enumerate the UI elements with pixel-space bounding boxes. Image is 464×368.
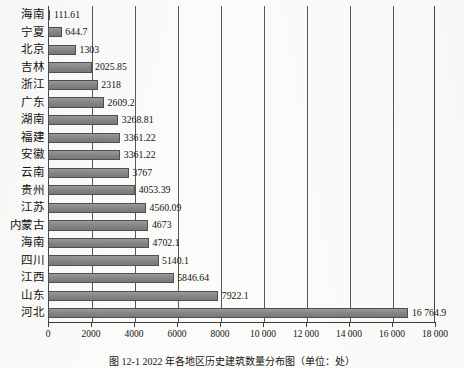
x-tick-label: 18 000 [422,329,448,340]
bar-row: 江苏4560.09 [0,199,464,217]
x-tick-label: 2000 [82,329,101,340]
category-label: 浙江 [21,76,44,94]
category-label: 海南 [21,6,44,24]
category-label: 福建 [21,129,44,147]
bar-row: 内蒙古4673 [0,217,464,235]
value-label: 3361.22 [124,131,156,145]
bar-row: 北京1303 [0,41,464,59]
x-tick-8000 [220,322,221,327]
category-label: 内蒙古 [10,217,44,235]
bar [48,133,120,143]
bar-row: 四川5140.1 [0,252,464,270]
bar [48,80,98,90]
category-label: 广东 [21,94,44,112]
x-tick-label: 14 000 [336,329,362,340]
value-label: 1303 [80,43,100,57]
value-label: 2318 [101,78,121,92]
bar-row: 湖南3268.81 [0,111,464,129]
x-tick-label: 12 000 [293,329,319,340]
x-tick-label: 6000 [168,329,187,340]
value-label: 4702.1 [153,236,180,250]
bar [48,185,135,195]
x-tick-6000 [177,322,178,327]
value-label: 4053.39 [139,183,171,197]
bar [48,97,104,107]
bar-row: 宁夏644.7 [0,24,464,42]
x-tick-label: 8000 [211,329,230,340]
chart-figure: 海南111.61宁夏644.7北京1303吉林2025.85浙江2318广东26… [0,0,464,368]
bar-row: 广东2609.2 [0,94,464,112]
bar [48,238,149,248]
value-label: 5140.1 [162,254,189,268]
category-label: 北京 [21,41,44,59]
bar-row: 福建3361.22 [0,129,464,147]
bar-row: 浙江2318 [0,76,464,94]
value-label: 3268.81 [122,113,154,127]
bar-row: 贵州4053.39 [0,182,464,200]
category-label: 湖南 [21,111,44,129]
category-label: 江西 [21,269,44,287]
x-tick-2000 [91,322,92,327]
bar-row: 海南111.61 [0,6,464,24]
bar [48,203,146,213]
value-label: 4673 [152,218,172,232]
category-label: 河北 [21,304,44,322]
category-label: 云南 [21,164,44,182]
bar [48,27,62,37]
value-label: 2025.85 [95,60,127,74]
x-tick-label: 10 000 [250,329,276,340]
category-label: 山东 [21,287,44,305]
x-tick-16000 [392,322,393,327]
x-tick-label: 16 000 [379,329,405,340]
bar-row: 山东7922.1 [0,287,464,305]
x-tick-14000 [349,322,350,327]
value-label: 3361.22 [124,148,156,162]
x-tick-18000 [435,322,436,327]
bar [48,168,129,178]
category-label: 宁夏 [21,24,44,42]
x-tick-label: 4000 [125,329,144,340]
x-axis-line [48,322,435,323]
bar [48,220,148,230]
bar [48,291,218,301]
category-label: 安徽 [21,146,44,164]
x-tick-12000 [306,322,307,327]
bar [48,308,408,318]
x-tick-4000 [134,322,135,327]
category-label: 江苏 [21,199,44,217]
bar [48,255,159,265]
value-label: 5846.64 [177,271,209,285]
category-label: 海南 [21,234,44,252]
value-label: 2609.2 [108,96,135,110]
category-label: 四川 [21,252,44,270]
bar-row: 河北16 764.9 [0,304,464,322]
bar [48,62,92,72]
bar [48,115,118,125]
bar [48,150,120,160]
bar-row: 安徽3361.22 [0,146,464,164]
value-label: 644.7 [65,25,87,39]
x-tick-label: 0 [46,329,51,340]
bar-row: 海南4702.1 [0,234,464,252]
bar [48,10,50,20]
value-label: 3767 [132,166,152,180]
figure-caption: 图 12-1 2022 年各地区历史建筑数量分布图（单位：处） [0,355,464,368]
bar-row: 江西5846.64 [0,269,464,287]
category-label: 吉林 [21,59,44,77]
x-tick-10000 [263,322,264,327]
category-label: 贵州 [21,182,44,200]
value-label: 7922.1 [222,289,249,303]
value-label: 111.61 [54,8,80,22]
x-tick-0 [48,322,49,327]
bar-row: 云南3767 [0,164,464,182]
bar-row: 吉林2025.85 [0,59,464,77]
value-label: 16 764.9 [412,306,446,320]
bar [48,273,174,283]
bar [48,45,76,55]
value-label: 4560.09 [150,201,182,215]
